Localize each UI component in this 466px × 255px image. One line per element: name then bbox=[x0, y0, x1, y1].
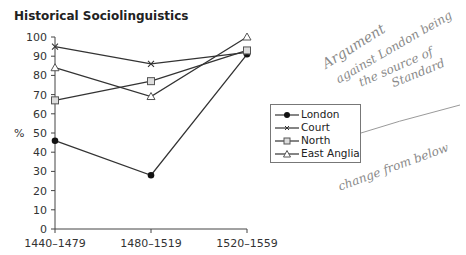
y-tick-label: 30 bbox=[33, 165, 47, 178]
x-tick-label: 1480–1519 bbox=[120, 237, 182, 250]
x-tick-label: 1440–1479 bbox=[24, 237, 86, 250]
y-tick-label: 80 bbox=[33, 69, 47, 82]
triangle-marker-icon bbox=[275, 149, 299, 159]
y-tick-label: 20 bbox=[33, 185, 47, 198]
series-line-london bbox=[55, 54, 247, 175]
series-line-east-anglia bbox=[55, 37, 247, 97]
legend-item-london: London bbox=[275, 108, 340, 121]
y-tick-label: 90 bbox=[33, 50, 47, 63]
y-tick-label: 70 bbox=[33, 89, 47, 102]
y-tick-label: 40 bbox=[33, 146, 47, 159]
legend-item-east-anglia: East Anglia bbox=[275, 147, 360, 160]
legend: London Court North East Anglia bbox=[270, 104, 361, 163]
y-tick-label: 100 bbox=[26, 31, 47, 44]
filled-circle-marker-icon bbox=[275, 110, 299, 120]
x-tick-label: 1520–1559 bbox=[216, 237, 278, 250]
y-tick-label: 60 bbox=[33, 108, 47, 121]
x-marker-icon bbox=[275, 123, 299, 133]
square-marker-icon bbox=[275, 136, 299, 146]
y-axis-label: % bbox=[14, 127, 24, 140]
y-tick-label: 10 bbox=[33, 204, 47, 217]
y-tick-label: 50 bbox=[33, 127, 47, 140]
y-tick-label: 0 bbox=[40, 223, 47, 236]
series-lines bbox=[51, 33, 251, 179]
legend-item-north: North bbox=[275, 134, 330, 147]
legend-item-court: Court bbox=[275, 121, 330, 134]
